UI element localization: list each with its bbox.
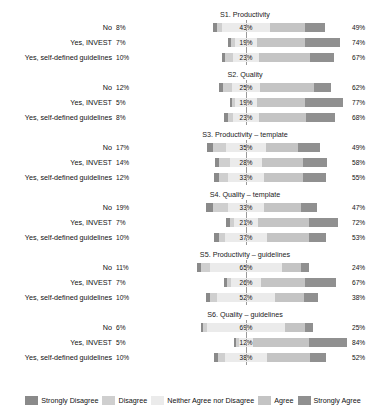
zero-center-line xyxy=(246,170,248,185)
row-agree-total: 67% xyxy=(352,50,384,65)
row-agree-total: 72% xyxy=(352,215,384,230)
row-agree-total: 25% xyxy=(352,320,384,335)
chart-row: Yes, self-defined guidelines10%67%23% xyxy=(0,50,386,65)
row-category-label: No xyxy=(0,140,112,155)
legend-item[interactable]: Disagree xyxy=(102,396,147,405)
chart-row: Yes, INVEST7%74%19% xyxy=(0,35,386,50)
row-agree-total: 49% xyxy=(352,20,384,35)
row-disagree-total: 14% xyxy=(116,155,138,170)
bar-segment xyxy=(282,263,301,272)
bar-segment xyxy=(223,83,232,92)
chart-row: No17%49%35% xyxy=(0,140,386,155)
zero-center-line xyxy=(246,200,248,215)
row-disagree-total: 10% xyxy=(116,290,138,305)
row-plot-area: 19% xyxy=(148,35,344,50)
bar-segment xyxy=(257,38,305,47)
row-disagree-total: 12% xyxy=(116,170,138,185)
chart-panel: S1. ProductivityNo8%49%43%Yes, INVEST7%7… xyxy=(0,9,386,65)
bar-segment xyxy=(264,173,302,182)
chart-row: Yes, self-defined guidelines10%52%38% xyxy=(0,350,386,365)
zero-center-line xyxy=(246,110,248,125)
row-plot-area: 35% xyxy=(148,140,344,155)
chart-panel: S4. Quality – templateNo19%47%33%Yes, IN… xyxy=(0,189,386,245)
row-plot-area: 23% xyxy=(148,50,344,65)
chart-row: No12%62%25% xyxy=(0,80,386,95)
row-disagree-total: 5% xyxy=(116,335,138,350)
zero-center-line xyxy=(246,95,248,110)
legend-swatch-icon xyxy=(298,396,311,405)
bar-segment xyxy=(225,53,233,62)
bar-segment xyxy=(303,158,327,167)
chart-panel: S3. Productivity – templateNo17%49%35%Ye… xyxy=(0,129,386,185)
row-disagree-total: 6% xyxy=(116,320,138,335)
bar-segment xyxy=(304,293,317,302)
row-agree-total: 49% xyxy=(352,140,384,155)
panel-title: S2. Quality xyxy=(150,69,340,80)
legend-item[interactable]: Neither Agree nor Disagree xyxy=(151,396,254,405)
row-category-label: Yes, INVEST xyxy=(0,35,112,50)
bar-segment xyxy=(275,293,304,302)
panel-title: S5. Productivity – guidelines xyxy=(150,249,340,260)
row-category-label: No xyxy=(0,200,112,215)
legend-swatch-icon xyxy=(151,396,164,405)
row-agree-total: 55% xyxy=(352,170,384,185)
legend-label: Disagree xyxy=(118,396,147,405)
bar-segment xyxy=(206,203,213,212)
row-plot-area: 26% xyxy=(148,275,344,290)
zero-center-line xyxy=(246,215,248,230)
bar-segment xyxy=(306,113,335,122)
bar-segment xyxy=(305,98,343,107)
row-plot-area: 69% xyxy=(148,320,344,335)
row-plot-area: 19% xyxy=(148,95,344,110)
row-disagree-total: 7% xyxy=(116,275,138,290)
legend-item[interactable]: Agree xyxy=(258,396,293,405)
zero-center-line xyxy=(246,140,248,155)
row-agree-total: 68% xyxy=(352,110,384,125)
bar-segment xyxy=(305,23,325,32)
row-plot-area: 28% xyxy=(148,155,344,170)
legend-item[interactable]: Strongly Disagree xyxy=(25,396,98,405)
row-agree-total: 53% xyxy=(352,230,384,245)
bar-segment xyxy=(261,278,306,287)
zero-center-line xyxy=(246,20,248,35)
row-plot-area: 12% xyxy=(148,335,344,350)
bar-segment xyxy=(201,263,210,272)
row-disagree-total: 12% xyxy=(116,80,138,95)
bar-segment xyxy=(305,278,335,287)
bar-segment xyxy=(270,23,305,32)
bar-segment xyxy=(309,338,347,347)
row-agree-total: 84% xyxy=(352,335,384,350)
zero-center-line xyxy=(246,260,248,275)
row-disagree-total: 10% xyxy=(116,230,138,245)
likert-diverging-chart: S1. ProductivityNo8%49%43%Yes, INVEST7%7… xyxy=(0,0,386,415)
zero-center-line xyxy=(246,350,248,365)
bar-segment xyxy=(314,83,331,92)
legend-item[interactable]: Strongly Agree xyxy=(298,396,361,405)
chart-row: Yes, INVEST7%72%21% xyxy=(0,215,386,230)
panel-title: S1. Productivity xyxy=(150,9,340,20)
row-agree-total: 58% xyxy=(352,155,384,170)
row-plot-area: 23% xyxy=(148,110,344,125)
bar-segment xyxy=(264,203,301,212)
row-category-label: Yes, INVEST xyxy=(0,215,112,230)
bar-segment xyxy=(305,38,340,47)
row-category-label: Yes, self-defined guidelines xyxy=(0,290,112,305)
legend-swatch-icon xyxy=(258,396,271,405)
chart-panel: S2. QualityNo12%62%25%Yes, INVEST5%77%19… xyxy=(0,69,386,125)
zero-center-line xyxy=(246,230,248,245)
row-disagree-total: 10% xyxy=(116,50,138,65)
bar-segment xyxy=(257,98,305,107)
row-category-label: Yes, self-defined guidelines xyxy=(0,50,112,65)
bar-segment xyxy=(298,143,320,152)
chart-row: Yes, self-defined guidelines8%68%23% xyxy=(0,110,386,125)
row-plot-area: 37% xyxy=(148,230,344,245)
row-disagree-total: 5% xyxy=(116,95,138,110)
bar-segment xyxy=(258,218,310,227)
panel-title: S4. Quality – template xyxy=(150,189,340,200)
bar-segment xyxy=(219,173,228,182)
row-disagree-total: 19% xyxy=(116,200,138,215)
legend-swatch-icon xyxy=(102,396,115,405)
bar-segment xyxy=(253,338,309,347)
row-agree-total: 74% xyxy=(352,35,384,50)
row-plot-area: 33% xyxy=(148,200,344,215)
